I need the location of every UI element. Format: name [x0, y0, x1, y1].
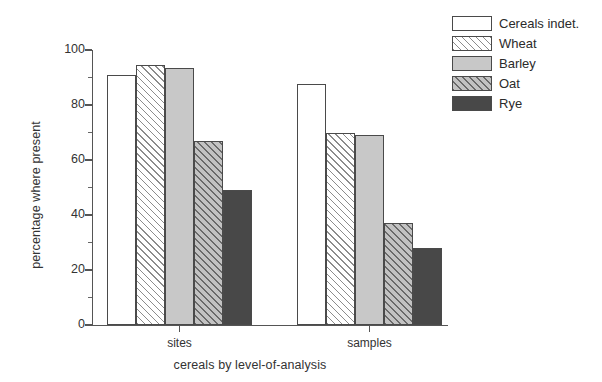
legend-label: Cereals indet. — [499, 17, 579, 30]
legend-label: Barley — [499, 57, 536, 70]
legend-item: Wheat — [452, 34, 579, 52]
bar — [384, 223, 413, 325]
legend-item: Cereals indet. — [452, 14, 579, 32]
legend-item: Rye — [452, 94, 579, 112]
bar — [165, 68, 194, 325]
chart-legend: Cereals indet.WheatBarleyOatRye — [452, 14, 579, 112]
bar — [107, 75, 136, 325]
bar — [413, 248, 442, 325]
bar — [326, 133, 355, 326]
legend-item: Barley — [452, 54, 579, 72]
legend-swatch — [452, 36, 492, 51]
legend-swatch — [452, 96, 492, 111]
bar — [355, 135, 384, 325]
legend-swatch — [452, 76, 492, 91]
legend-label: Wheat — [499, 37, 537, 50]
bar — [297, 84, 326, 325]
legend-swatch — [452, 56, 492, 71]
bar — [194, 141, 223, 325]
bar — [223, 190, 252, 325]
legend-label: Oat — [499, 77, 520, 90]
legend-label: Rye — [499, 97, 522, 110]
bar — [136, 65, 165, 325]
bar-chart: percentage where present cereals by leve… — [0, 0, 602, 382]
legend-item: Oat — [452, 74, 579, 92]
legend-swatch — [452, 16, 492, 31]
